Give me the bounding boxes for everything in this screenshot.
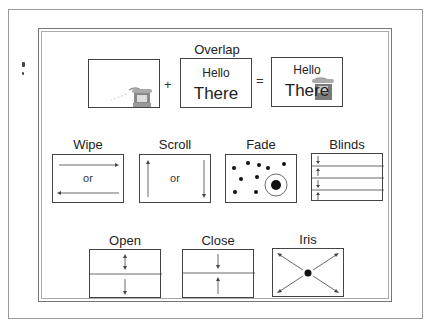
plus-sign: + [164, 77, 172, 92]
arrow-icon [90, 250, 162, 299]
scan-mark [22, 62, 25, 67]
overlap-text-box: Hello There [180, 58, 252, 108]
open-label: Open [89, 233, 161, 248]
equals-sign: = [256, 73, 264, 88]
overlap-phone-box [88, 59, 160, 108]
blinds-diagram [311, 153, 383, 201]
close-label: Close [182, 233, 254, 248]
fade-diagram [225, 154, 297, 203]
iris-diagram [272, 248, 344, 297]
blinds-label: Blinds [311, 137, 383, 152]
open-diagram [89, 249, 161, 298]
wipe-label: Wipe [52, 137, 124, 152]
overlap-result-box: Hello There [271, 57, 343, 107]
fade-label: Fade [225, 137, 297, 152]
scroll-diagram: or [139, 154, 211, 203]
scroll-label: Scroll [139, 137, 211, 152]
telephone-icon [89, 60, 161, 109]
wipe-diagram: or [52, 154, 124, 203]
dots-icon [226, 155, 298, 204]
there-text: There [272, 81, 342, 101]
hello-text: Hello [272, 63, 342, 77]
iris-icon [273, 249, 345, 298]
overlap-title: Overlap [182, 42, 252, 57]
close-diagram [182, 249, 254, 298]
or-text: or [140, 172, 210, 184]
iris-label: Iris [272, 232, 344, 247]
arrow-icon [183, 250, 255, 299]
or-text: or [53, 172, 123, 184]
there-text: There [181, 84, 251, 104]
hello-text: Hello [181, 66, 251, 80]
arrow-icon [312, 154, 384, 202]
scan-mark [22, 72, 24, 75]
